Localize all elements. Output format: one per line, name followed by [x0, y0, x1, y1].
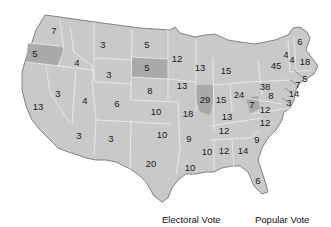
state-label-vt: 4 — [283, 50, 288, 60]
state-label-va: 12 — [260, 105, 271, 115]
us-landmass — [22, 15, 318, 202]
state-label-ia: 13 — [177, 81, 188, 91]
state-label-wa: 7 — [51, 26, 56, 36]
state-label-ut: 4 — [82, 96, 87, 106]
state-label-nh: 4 — [289, 55, 294, 65]
state-label-id: 4 — [74, 58, 79, 68]
state-label-co: 6 — [114, 99, 119, 109]
state-label-sd: 5 — [144, 63, 149, 73]
state-label-tx: 20 — [146, 159, 157, 169]
state-label-ky: 13 — [222, 112, 233, 122]
state-label-ny: 45 — [271, 61, 282, 71]
state-label-ne: 8 — [147, 86, 152, 96]
state-label-la: 10 — [185, 163, 196, 173]
state-label-nc: 12 — [260, 118, 271, 128]
state-label-al: 12 — [219, 146, 230, 156]
state-label-az: 3 — [76, 131, 81, 141]
state-label-wv: 7 — [249, 100, 254, 110]
legend-electoral-vote: Electoral Vote — [162, 214, 221, 225]
state-label-in: 15 — [216, 95, 227, 105]
state-label-nm: 3 — [108, 134, 113, 144]
state-label-md: 8 — [268, 91, 273, 101]
state-label-oh: 24 — [234, 90, 245, 100]
legend-popular-vote: Popular Vote — [255, 214, 309, 225]
state-label-fl: 6 — [255, 176, 260, 186]
state-label-mi: 15 — [221, 66, 232, 76]
state-label-wi: 13 — [195, 63, 206, 73]
state-label-ms: 10 — [202, 147, 213, 157]
state-label-nv: 3 — [55, 89, 60, 99]
state-label-ks: 10 — [151, 107, 162, 117]
state-label-tn: 12 — [219, 126, 230, 136]
state-label-mo: 18 — [183, 109, 194, 119]
state-label-nd: 5 — [144, 40, 149, 50]
state-label-wy: 3 — [106, 70, 111, 80]
state-label-me: 6 — [297, 37, 302, 47]
us-map — [0, 0, 331, 227]
state-label-mn: 12 — [172, 54, 183, 64]
state-label-sc: 9 — [254, 135, 259, 145]
state-label-ga: 14 — [238, 146, 249, 156]
state-label-or: 5 — [32, 49, 37, 59]
state-label-ar: 9 — [186, 134, 191, 144]
state-label-il: 29 — [200, 95, 211, 105]
state-label-ca: 13 — [33, 102, 44, 112]
state-label-ma: 18 — [300, 57, 311, 67]
state-label-de: 3 — [286, 98, 291, 108]
state-label-mt: 3 — [100, 40, 105, 50]
state-label-ok: 10 — [157, 130, 168, 140]
state-label-ri: 5 — [302, 74, 307, 84]
